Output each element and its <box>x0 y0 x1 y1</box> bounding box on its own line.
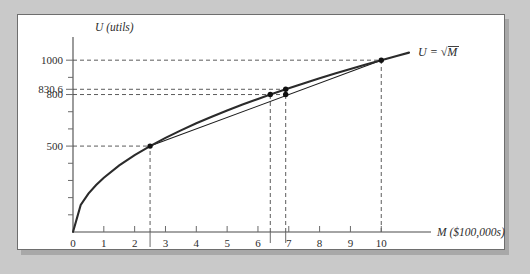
y-axis-title: U (utils) <box>95 21 134 34</box>
point-10-1000 <box>379 57 384 62</box>
x-tick-label-1: 1 <box>101 237 107 249</box>
x-tick-label-2: 2 <box>132 237 138 249</box>
x-axis-title: M ($100,000s) <box>436 226 505 239</box>
point-6.9-830.6 <box>283 87 288 92</box>
x-tick-label-4: 4 <box>194 237 200 249</box>
figure-panel: 500800830.610000123456789102.56.46.9U (u… <box>17 14 505 250</box>
y-tick-label-1000: 1000 <box>41 54 64 66</box>
page-background: 500800830.610000123456789102.56.46.9U (u… <box>0 0 530 274</box>
point-6.9-800 <box>283 92 288 97</box>
x-tick-label-3: 3 <box>163 237 169 249</box>
y-tick-label-830.6: 830.6 <box>38 83 63 95</box>
x-tick-label-6: 6 <box>255 237 261 249</box>
x-tick-label-10: 10 <box>376 237 388 249</box>
chart-svg: 500800830.610000123456789102.56.46.9U (u… <box>18 15 506 251</box>
x-callout-label-6.4: 6.4 <box>264 249 278 251</box>
x-tick-label-5: 5 <box>224 237 230 249</box>
curve-equation-label: U = √M <box>418 45 458 59</box>
point-6.4-800 <box>268 92 273 97</box>
x-tick-label-9: 9 <box>348 237 354 249</box>
utility-chart: 500800830.610000123456789102.56.46.9U (u… <box>18 15 506 251</box>
point-2.5-500 <box>147 143 152 148</box>
chord-line <box>150 60 381 146</box>
x-tick-label-8: 8 <box>317 237 323 249</box>
x-tick-label-0: 0 <box>70 237 76 249</box>
y-tick-label-500: 500 <box>47 140 64 152</box>
x-tick-label-7: 7 <box>286 237 292 249</box>
utility-curve <box>73 53 409 232</box>
